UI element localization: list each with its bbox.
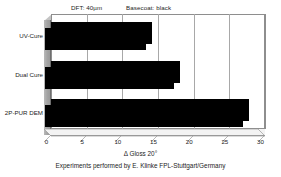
x-tick-label: 10: [110, 138, 126, 145]
bar: [51, 22, 152, 44]
x-axis-title: Δ Gloss 20°: [0, 150, 281, 158]
bar: [51, 61, 180, 83]
floor-tick: [80, 129, 88, 137]
x-tick-label: 25: [217, 138, 233, 145]
annotation-dft: DFT: 40µm: [71, 4, 102, 12]
floor-tick: [187, 129, 195, 137]
x-tick-label: 20: [181, 138, 197, 145]
bar: [51, 99, 249, 121]
floor-tick: [115, 129, 123, 137]
x-tick-label: 30: [253, 138, 269, 145]
category-label: UV-Cure: [19, 32, 43, 40]
gloss-bar-chart: DFT: 40µm Basecoat: black UV-CureDual Cu…: [0, 0, 281, 177]
category-label: 2P-PUR DEM: [5, 109, 43, 117]
gridline: [265, 14, 266, 129]
floor-tick: [151, 129, 159, 137]
category-label: Dual Cure: [15, 71, 43, 79]
x-tick-label: 0: [39, 138, 55, 145]
annotation-basecoat: Basecoat: black: [126, 4, 171, 12]
floor-tick: [258, 129, 266, 137]
footer-credit: Experiments performed by E. Klinke FPL-S…: [0, 162, 281, 170]
x-tick-label: 15: [146, 138, 162, 145]
floor-tick: [44, 129, 52, 137]
floor-tick: [222, 129, 230, 137]
x-tick-label: 5: [74, 138, 90, 145]
